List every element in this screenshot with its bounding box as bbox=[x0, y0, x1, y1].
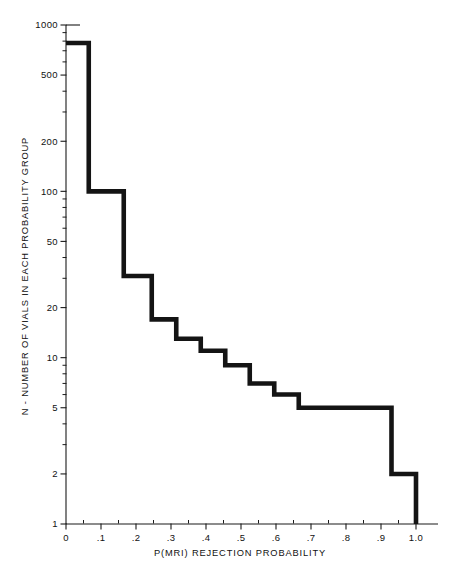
y-tick-label: 50 bbox=[47, 236, 58, 247]
x-tick-label: .7 bbox=[307, 532, 316, 543]
x-tick-label: 0 bbox=[63, 532, 69, 543]
x-tick-label: .4 bbox=[202, 532, 211, 543]
y-axis-title: N - NUMBER OF VIALS IN EACH PROBABILITY … bbox=[20, 137, 30, 415]
x-tick-label: .1 bbox=[97, 532, 106, 543]
y-tick-label: 500 bbox=[41, 69, 58, 80]
y-tick-labels: 1251020501002005001000 bbox=[35, 19, 58, 529]
x-tick-label: .3 bbox=[167, 532, 176, 543]
x-tick-label: .5 bbox=[237, 532, 246, 543]
y-tick-label: 2 bbox=[52, 468, 58, 479]
x-tick-label: .9 bbox=[377, 532, 386, 543]
x-tick-label: .2 bbox=[132, 532, 141, 543]
step-chart: 1251020501002005001000 0.1.2.3.4.5.6.7.8… bbox=[0, 0, 455, 579]
x-tick-labels: 0.1.2.3.4.5.6.7.8.91.0 bbox=[63, 532, 423, 543]
figure-panel: 1251020501002005001000 0.1.2.3.4.5.6.7.8… bbox=[0, 0, 455, 579]
y-tick-label: 10 bbox=[47, 352, 58, 363]
y-tick-label: 5 bbox=[52, 402, 58, 413]
step-curve-path bbox=[66, 43, 416, 524]
y-tick-label: 100 bbox=[41, 186, 58, 197]
y-tick-label: 1 bbox=[52, 518, 58, 529]
y-tick-label: 20 bbox=[47, 302, 58, 313]
x-tick-label: 1.0 bbox=[409, 532, 423, 543]
x-tick-label: .6 bbox=[272, 532, 281, 543]
step-curve bbox=[66, 43, 416, 524]
y-tick-label: 200 bbox=[41, 136, 58, 147]
x-tick-label: .8 bbox=[342, 532, 351, 543]
x-axis-title: P(MRI) REJECTION PROBABILITY bbox=[154, 548, 326, 558]
y-tick-label: 1000 bbox=[35, 19, 58, 30]
tick-marks bbox=[61, 25, 417, 530]
